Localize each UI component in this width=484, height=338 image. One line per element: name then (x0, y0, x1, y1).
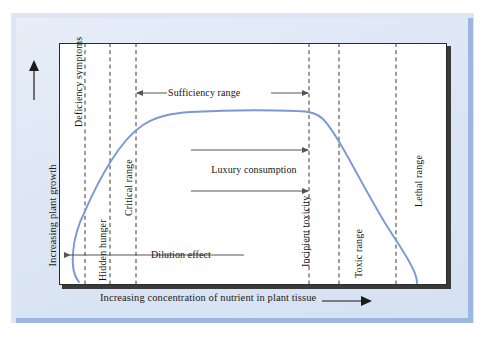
region-label-toxic-range: Toxic range (353, 229, 364, 278)
y-axis-title: Increasing plant growth (47, 126, 58, 306)
region-label-lethal-range: Lethal range (413, 155, 424, 207)
annotation-dilution-effect: Dilution effect (151, 249, 211, 260)
x-axis-arrow-icon (322, 294, 374, 308)
plot-shadow-right (447, 46, 451, 288)
x-axis-title-group: Increasing concentration of nutrient in … (100, 292, 430, 310)
plot-shadow-bottom (62, 285, 451, 289)
region-label-hidden-hunger: Hidden hunger (97, 219, 108, 281)
region-label-critical-range: Critical range (123, 159, 134, 216)
figure-root: Deficiency symptoms Hidden hunger Critic… (0, 0, 484, 338)
region-label-incipient-toxicity: Incipient toxicity (300, 196, 311, 267)
annotation-sufficiency-range: Sufficiency range (168, 87, 240, 98)
annotation-luxury-consumption: Luxury consumption (211, 164, 297, 176)
y-axis-arrow-icon (27, 58, 41, 100)
figure-panel-bottom-edge (16, 318, 473, 323)
region-label-deficiency-symptoms: Deficiency symptoms (73, 37, 84, 127)
x-axis-title: Increasing concentration of nutrient in … (100, 292, 316, 303)
figure-panel-right-edge (468, 18, 473, 321)
